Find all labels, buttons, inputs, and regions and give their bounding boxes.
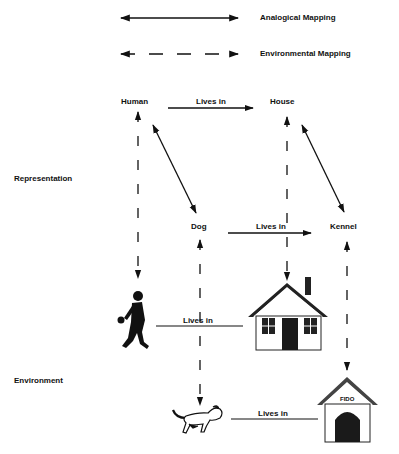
- section-representation-label: Representation: [14, 174, 72, 183]
- relation-env-human-house-label: Lives in: [183, 316, 213, 325]
- dog-picture: [173, 406, 222, 433]
- node-house: House: [270, 97, 294, 106]
- kennel-picture: [317, 377, 378, 442]
- node-human: Human: [121, 97, 148, 106]
- house-kennel-analogical-arrow: [302, 125, 344, 212]
- legend-analogical-label: Analogical Mapping: [260, 13, 336, 22]
- relation-env-dog-kennel-label: Lives in: [258, 409, 288, 418]
- node-dog: Dog: [191, 222, 207, 231]
- human-dog-analogical-arrow: [153, 125, 196, 213]
- relation-dog-kennel-label: Lives in: [256, 222, 286, 231]
- legend-environmental-label: Environmental Mapping: [260, 49, 351, 58]
- kennel-sign-label: FIDO: [340, 396, 354, 402]
- house-picture: [248, 277, 328, 350]
- person-picture: [118, 291, 150, 349]
- section-environment-label: Environment: [14, 376, 63, 385]
- relation-human-house-label: Lives in: [196, 97, 226, 106]
- node-kennel: Kennel: [330, 222, 357, 231]
